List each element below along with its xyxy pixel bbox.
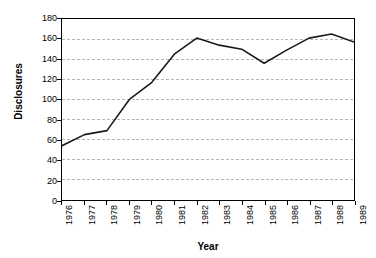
y-tick-label: 140 xyxy=(42,54,57,63)
x-tick-mark xyxy=(265,201,266,205)
y-axis-tick-labels: 020406080100120140160180 xyxy=(0,18,57,201)
x-axis-title: Year xyxy=(61,241,355,252)
x-tick-mark xyxy=(219,201,220,205)
y-tick-label: 80 xyxy=(47,115,57,124)
x-tick-mark xyxy=(84,201,85,205)
x-tick-mark xyxy=(61,201,62,205)
x-tick-label: 1977 xyxy=(88,205,97,225)
y-tick-mark xyxy=(57,79,61,80)
y-tick-label: 40 xyxy=(47,156,57,165)
plot-svg xyxy=(62,19,354,200)
x-tick-label: 1989 xyxy=(359,205,368,225)
y-tick-label: 20 xyxy=(47,176,57,185)
x-tick-label: 1987 xyxy=(314,205,323,225)
x-tick-label: 1988 xyxy=(336,205,345,225)
x-tick-label: 1983 xyxy=(223,205,232,225)
y-tick-mark xyxy=(57,181,61,182)
y-tick-label: 160 xyxy=(42,34,57,43)
x-tick-mark xyxy=(242,201,243,205)
x-tick-label: 1979 xyxy=(133,205,142,225)
x-tick-mark xyxy=(129,201,130,205)
x-tick-mark xyxy=(197,201,198,205)
x-tick-label: 1982 xyxy=(201,205,210,225)
y-tick-mark xyxy=(57,99,61,100)
y-tick-mark xyxy=(57,38,61,39)
y-tick-mark xyxy=(57,140,61,141)
x-axis-tick-labels: 1976197719781979198019811982198319841985… xyxy=(61,205,355,241)
y-tick-mark xyxy=(57,160,61,161)
y-tick-label: 180 xyxy=(42,14,57,23)
x-tick-label: 1980 xyxy=(155,205,164,225)
y-tick-label: 120 xyxy=(42,75,57,84)
y-tick-mark xyxy=(57,18,61,19)
line-chart: Disclosures 020406080100120140160180 197… xyxy=(0,0,376,258)
x-tick-mark xyxy=(174,201,175,205)
x-tick-label: 1985 xyxy=(269,205,278,225)
y-tick-mark xyxy=(57,120,61,121)
x-tick-label: 1981 xyxy=(178,205,187,225)
y-tick-label: 60 xyxy=(47,136,57,145)
x-tick-label: 1978 xyxy=(110,205,119,225)
y-tick-label: 100 xyxy=(42,95,57,104)
x-tick-mark xyxy=(287,201,288,205)
x-tick-mark xyxy=(151,201,152,205)
x-tick-mark xyxy=(355,201,356,205)
plot-area xyxy=(61,18,355,201)
y-tick-mark xyxy=(57,59,61,60)
x-tick-label: 1976 xyxy=(65,205,74,225)
data-series-line xyxy=(62,34,354,146)
x-tick-mark xyxy=(310,201,311,205)
x-tick-label: 1984 xyxy=(246,205,255,225)
x-tick-label: 1986 xyxy=(291,205,300,225)
x-tick-mark xyxy=(106,201,107,205)
x-tick-mark xyxy=(332,201,333,205)
